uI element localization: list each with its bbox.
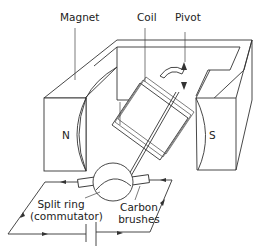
split-ring-leader xyxy=(85,192,100,198)
commutator xyxy=(78,163,150,201)
split-ring-label: Split ring (commutator) xyxy=(30,199,92,222)
coil-label: Coil xyxy=(137,12,157,24)
brushes-leader xyxy=(135,186,140,200)
pivot-label: Pivot xyxy=(175,12,201,24)
south-pole-label: S xyxy=(209,130,216,142)
magnet-label: Magnet xyxy=(60,12,99,24)
carbon-brushes-label: Carbon brushes xyxy=(118,202,160,225)
pivot-arrow xyxy=(160,32,187,90)
dc-motor-diagram: Magnet Coil Pivot N S Split ring (commut… xyxy=(0,0,265,250)
split-ring-label-line1: Split ring xyxy=(30,199,92,211)
split-ring-label-line2: (commutator) xyxy=(30,211,92,223)
carbon-brushes-label-line2: brushes xyxy=(118,214,160,226)
carbon-brushes-label-line1: Carbon xyxy=(118,202,160,214)
north-pole-label: N xyxy=(62,130,70,142)
